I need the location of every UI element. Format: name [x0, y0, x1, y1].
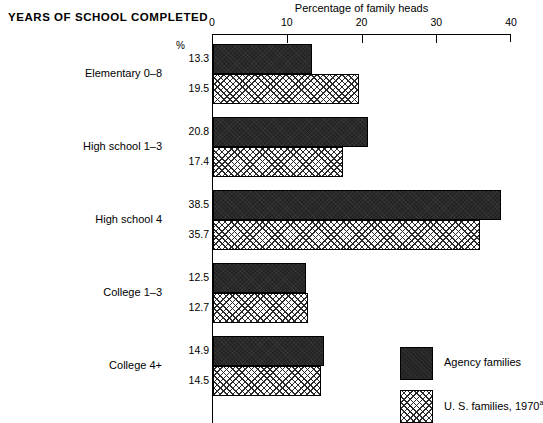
chart-title: YEARS OF SCHOOL COMPLETED: [8, 11, 208, 23]
category-label-4: College 4+: [0, 359, 162, 371]
bar-agency-4: [213, 336, 324, 366]
bar-agency-2: [213, 190, 501, 220]
value-label-agency-1: 20.8: [149, 125, 209, 137]
x-tick-label-30: 30: [430, 16, 442, 28]
value-label-us-1: 17.4: [149, 155, 209, 167]
value-label-agency-0: 13.3: [149, 52, 209, 64]
bar-us-2: [213, 220, 480, 250]
value-label-us-0: 19.5: [149, 82, 209, 94]
bar-agency-3: [213, 263, 306, 293]
bar-us-3: [213, 293, 308, 323]
bar-us-1: [213, 147, 343, 177]
bar-us-4: [213, 366, 321, 396]
value-label-agency-4: 14.9: [149, 344, 209, 356]
category-label-1: High school 1–3: [0, 140, 162, 152]
legend-label-us-text: U. S. families, 1970: [444, 400, 539, 412]
x-tick-label-10: 10: [281, 16, 293, 28]
legend-swatch-agency-icon: [400, 347, 433, 380]
bar-us-0: [213, 74, 359, 104]
percent-unit-label: %: [176, 40, 185, 51]
category-label-0: Elementary 0–8: [0, 67, 162, 79]
legend-label-us: U. S. families, 1970a: [444, 399, 543, 412]
x-axis-title: Percentage of family heads: [212, 2, 511, 14]
category-label-2: High school 4: [0, 213, 162, 225]
value-label-us-3: 12.7: [149, 301, 209, 313]
legend-label-agency: Agency families: [444, 356, 521, 368]
x-tick-label-20: 20: [356, 16, 368, 28]
x-tick-label-40: 40: [505, 16, 517, 28]
value-label-agency-3: 12.5: [149, 271, 209, 283]
bar-agency-1: [213, 117, 368, 147]
legend-swatch-us-icon: [400, 390, 433, 423]
value-label-us-4: 14.5: [149, 374, 209, 386]
x-tick-label-0: 0: [209, 16, 215, 28]
bar-chart: YEARS OF SCHOOL COMPLETED Percentage of …: [0, 0, 543, 423]
legend-footnote-marker: a: [539, 399, 543, 406]
category-label-3: College 1–3: [0, 286, 162, 298]
value-label-agency-2: 38.5: [149, 198, 209, 210]
bar-agency-0: [213, 44, 312, 74]
value-label-us-2: 35.7: [149, 228, 209, 240]
